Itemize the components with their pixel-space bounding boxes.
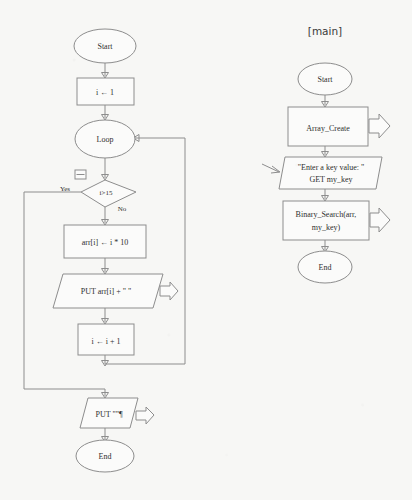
- subroutine-arrow-icon: [369, 114, 390, 138]
- left-put-element-label: PUT arr[i] + " ": [81, 287, 131, 296]
- input-arrow-icon: [262, 164, 280, 173]
- right-prompt-line2: GET my_key: [309, 175, 352, 184]
- left-end-node[interactable]: End: [76, 440, 134, 472]
- output-arrow-icon-2: [136, 407, 154, 424]
- left-increment-node[interactable]: i ← i + 1: [78, 324, 134, 355]
- left-start-node[interactable]: Start: [74, 29, 136, 63]
- right-binary-search-line2: my_key): [312, 223, 341, 232]
- subroutine-arrow-icon-2: [370, 208, 390, 232]
- left-condition-label: i>15: [100, 189, 113, 197]
- left-no-label: No: [118, 205, 127, 213]
- right-array-create-node[interactable]: Array_Create: [288, 107, 390, 146]
- right-binary-search-line1: Binary_Search(arr,: [296, 210, 357, 219]
- collapse-box-icon[interactable]: [75, 170, 86, 179]
- left-put-element-node[interactable]: PUT arr[i] + " ": [53, 274, 178, 308]
- left-start-label: Start: [97, 42, 113, 51]
- left-put-newline-node[interactable]: PUT ""¶: [80, 398, 154, 428]
- left-loop-label: Loop: [97, 135, 114, 144]
- right-binary-search-node[interactable]: Binary_Search(arr, my_key): [283, 201, 390, 240]
- right-end-node[interactable]: End: [298, 251, 352, 283]
- left-loop-node[interactable]: Loop: [75, 120, 135, 158]
- right-end-label: End: [319, 263, 332, 272]
- left-end-label: End: [99, 452, 112, 461]
- left-assign-node[interactable]: arr[i] ← i * 10: [64, 225, 146, 258]
- right-array-create-label: Array_Create: [306, 124, 350, 133]
- right-start-label: Start: [317, 75, 333, 84]
- right-prompt-line1: "Enter a key value: ": [298, 163, 365, 172]
- left-yes-label: Yes: [60, 185, 70, 193]
- main-title: [main]: [308, 25, 342, 37]
- left-init-node[interactable]: i ← 1: [77, 78, 134, 105]
- right-start-node[interactable]: Start: [298, 63, 352, 95]
- left-condition-node[interactable]: i>15: [81, 180, 136, 207]
- left-put-newline-label: PUT ""¶: [95, 410, 123, 419]
- flowchart-canvas: Start i ← 1 Loop i>15 Yes No arr[i] ← i …: [0, 0, 412, 500]
- output-arrow-icon: [160, 282, 178, 300]
- left-assign-label: arr[i] ← i * 10: [82, 238, 129, 247]
- left-init-label: i ← 1: [96, 88, 114, 97]
- flowchart-svg: Start i ← 1 Loop i>15 Yes No arr[i] ← i …: [0, 0, 412, 500]
- right-input-node[interactable]: "Enter a key value: " GET my_key: [262, 157, 382, 189]
- left-increment-label: i ← i + 1: [92, 337, 121, 346]
